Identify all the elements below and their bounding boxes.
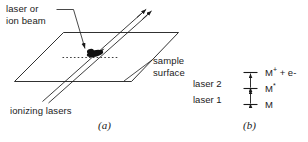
- state-label-ionized: M+ + e-: [265, 67, 296, 78]
- laser-2-label: laser 2: [193, 78, 222, 89]
- beam-label-leader-line: [57, 10, 86, 49]
- sample-surface-label: sample surface: [153, 55, 201, 78]
- laser-or-ion-beam-label: laser or ion beam: [6, 3, 60, 26]
- state-label-ground: M: [265, 99, 273, 110]
- panel-b-energy-diagram: [244, 73, 258, 105]
- ionizing-lasers-label: ionizing lasers: [10, 105, 72, 116]
- impact-spot: [86, 48, 104, 58]
- beam-label-leader: [57, 10, 86, 49]
- laser-1-label: laser 1: [193, 94, 222, 105]
- state-excited-symbol: M: [265, 83, 273, 94]
- sample-surface-leader: [124, 60, 152, 81]
- panel-a-caption: (a): [98, 119, 111, 131]
- figure-root: laser or ion beam sample surface ionizin…: [0, 0, 308, 142]
- state-ionized-suffix: + e-: [277, 67, 296, 78]
- state-excited-superscript: *: [273, 82, 276, 89]
- state-ionized-symbol: M: [265, 67, 273, 78]
- laser-or-ion-beam-label-line1: laser or: [6, 3, 60, 15]
- state-label-excited: M*: [265, 83, 276, 94]
- sample-surface-label-line1: sample: [153, 55, 201, 67]
- panel-b-caption: (b): [243, 119, 256, 131]
- beam-line-1: [43, 14, 142, 102]
- beam-arrow-1: [137, 9, 146, 17]
- state-ground-symbol: M: [265, 99, 273, 110]
- beam-line-2: [49, 15, 148, 103]
- beam-arrow-2: [143, 11, 152, 19]
- laser-or-ion-beam-label-line2: ion beam: [6, 15, 60, 27]
- sample-surface-label-line2: surface: [153, 67, 201, 79]
